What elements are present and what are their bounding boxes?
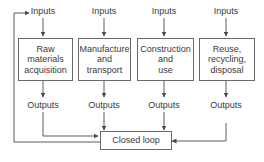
stage-title-line: Raw bbox=[24, 44, 67, 55]
outputs-to-loop-1 bbox=[43, 112, 98, 136]
stage-title-line: disposal bbox=[208, 65, 246, 76]
output-label-4: Outputs bbox=[210, 100, 242, 110]
stage-box-construction: Construction and use bbox=[137, 38, 194, 81]
stage-title-line: materials bbox=[24, 54, 67, 65]
stage-box-raw-materials: Raw materials acquisition bbox=[18, 38, 73, 81]
stage-title-line: acquisition bbox=[24, 65, 67, 76]
stage-title-line: Reuse, bbox=[208, 44, 246, 55]
stage-title-line: and bbox=[79, 54, 129, 65]
stage-title-line: use bbox=[140, 65, 191, 76]
outputs-to-loop-4 bbox=[172, 123, 226, 141]
closed-loop-box: Closed loop bbox=[100, 131, 172, 150]
output-label-2: Outputs bbox=[88, 100, 120, 110]
stage-title-line: Manufacture bbox=[79, 44, 129, 55]
stage-title-line: transport bbox=[79, 65, 129, 76]
closed-loop-label: Closed loop bbox=[112, 135, 160, 146]
stage-title-line: and bbox=[140, 54, 191, 65]
stage-box-manufacture: Manufacture and transport bbox=[78, 38, 131, 81]
input-label-3: Inputs bbox=[152, 6, 177, 16]
input-label-4: Inputs bbox=[214, 6, 239, 16]
output-label-3: Outputs bbox=[148, 100, 180, 110]
input-label-1: Inputs bbox=[31, 6, 56, 16]
stage-title-line: recycling, bbox=[208, 54, 246, 65]
stage-title-line: Construction bbox=[140, 44, 191, 55]
output-label-1: Outputs bbox=[27, 100, 59, 110]
stage-box-reuse: Reuse, recycling, disposal bbox=[199, 38, 255, 81]
input-label-2: Inputs bbox=[92, 6, 117, 16]
